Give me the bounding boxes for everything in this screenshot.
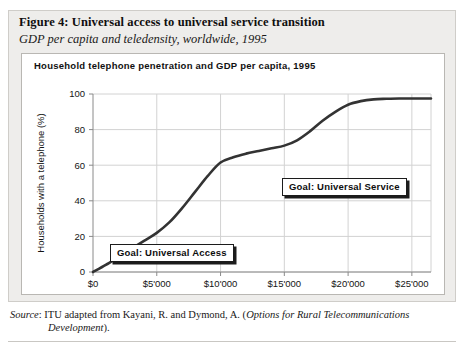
source-closing: ). (103, 322, 109, 333)
source-work-title: Options for Rural Telecommunications (246, 309, 409, 320)
x-tick-label: $5'000 (143, 278, 171, 289)
y-tick-label: 80 (74, 124, 85, 135)
y-tick-label: 20 (74, 231, 85, 242)
chart-card: Household telephone penetration and GDP … (21, 53, 445, 295)
y-axis-title: Households with a telephone (%) (35, 113, 46, 252)
x-tick-label: $0 (88, 278, 99, 289)
x-tick-label: $20'000 (331, 278, 365, 289)
figure-panel: Figure 4: Universal access to universal … (8, 10, 456, 302)
x-tick-label: $10'000 (204, 278, 238, 289)
source-text: ITU adapted from Kayani, R. and Dymond, … (44, 309, 246, 320)
y-tick-label: 60 (74, 160, 85, 171)
figure-title: Figure 4: Universal access to universal … (19, 15, 325, 30)
y-tick-label: 100 (69, 88, 85, 99)
y-tick-label: 0 (80, 266, 85, 277)
x-tick-label: $25'000 (395, 278, 429, 289)
y-tick-label: 40 (74, 195, 85, 206)
source-second-line: Development). (48, 321, 458, 334)
source-label: Source (10, 309, 39, 320)
y-tick-labels: 020406080100 (69, 88, 85, 277)
x-tick-labels: $0$5'000$10'000$15'000$20'000$25'000 (88, 278, 429, 289)
figure-subtitle: GDP per capita and teledensity, worldwid… (19, 32, 267, 47)
bottom-divider (8, 341, 456, 342)
callout-universal-service: Goal: Universal Service (282, 178, 407, 196)
x-tick-label: $15'000 (268, 278, 302, 289)
callout-universal-access: Goal: Universal Access (110, 244, 234, 262)
source-work-title-cont: Development (48, 322, 103, 333)
source-note: Source: ITU adapted from Kayani, R. and … (10, 308, 458, 334)
